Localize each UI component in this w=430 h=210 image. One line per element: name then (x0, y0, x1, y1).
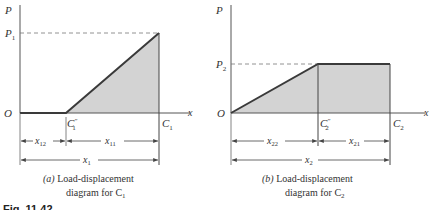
x-axis-label-b: x (423, 107, 429, 118)
x12-label: x12 (34, 135, 46, 147)
p1-label: P1 (4, 27, 16, 42)
load-displacement-figure: P x O P1 C″1 C1 x12 x11 x1 (a (0, 0, 430, 210)
x11-label: x11 (104, 135, 116, 147)
origin-label-b: O (217, 107, 225, 119)
origin-label-a: O (4, 107, 12, 119)
c1-label: C1 (162, 117, 173, 132)
caption-a-line1: (a) Load-displacement (43, 173, 134, 185)
panel-a: P x O P1 C″1 C1 x12 x11 x1 (a (4, 4, 193, 200)
caption-b-line2: diagram for C2 (285, 187, 345, 200)
x2-label: x2 (304, 154, 313, 166)
work-area-b (231, 64, 390, 113)
c1pp-label: C″1 (67, 117, 77, 132)
figure-label: Fig. 11.42 (3, 203, 53, 210)
y-axis-label-a: P (4, 4, 12, 16)
caption-a-line2: diagram for C1 (66, 187, 126, 200)
c2pp-label: C″2 (320, 117, 330, 132)
x22-label: x22 (266, 135, 278, 147)
x1-label: x1 (82, 154, 91, 166)
x21-label: x21 (348, 135, 360, 147)
c2-label: C2 (393, 117, 404, 132)
y-axis-label-b: P (215, 4, 223, 16)
caption-b-line1: (b) Load-displacement (262, 173, 353, 185)
panel-b: P x O P2 C″2 C2 x22 x21 x2 (b) Loa (215, 4, 429, 200)
x-axis-label-a: x (187, 107, 193, 118)
p2-label: P2 (215, 58, 227, 73)
